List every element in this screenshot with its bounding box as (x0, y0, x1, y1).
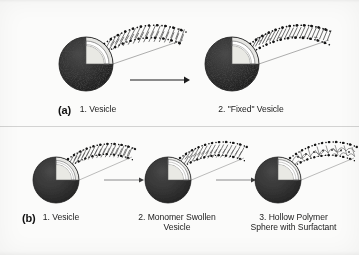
vesicle-unit-a2 (198, 4, 348, 104)
caption-b2: 2. Monomer Swollen Vesicle (118, 212, 236, 233)
vesicle-sphere-a2 (205, 37, 259, 91)
magnified-monomer-swollen-arc-b2 (178, 142, 247, 170)
magnified-bilayer-arc-b1 (66, 144, 135, 169)
vesicle-diagram-a2 (198, 4, 348, 104)
arrow-icon (128, 72, 194, 88)
panel-b: (b) (0, 128, 359, 255)
arrow-head (184, 77, 190, 84)
vesicle-diagram-a1 (52, 4, 192, 104)
polymer-network-b3 (292, 145, 355, 167)
inner-headgroup-dots-a2 (247, 38, 330, 56)
magnified-polymerized-arc-a2 (247, 25, 332, 56)
outer-headgroup-dots-a2 (250, 25, 332, 44)
magnified-polymer-shell-arc-b3 (288, 142, 357, 170)
panel-a: (a) (0, 0, 359, 128)
vesicle-sphere-a1 (59, 37, 113, 91)
caption-b1: 1. Vesicle (6, 212, 116, 222)
caption-a1: 1. Vesicle (28, 104, 168, 114)
process-arrow-a1-to-a2[interactable] (128, 72, 194, 88)
caption-b3: 3. Hollow Polymer Sphere with Surfactant (228, 212, 359, 233)
vesicle-unit-b3 (250, 128, 359, 214)
vesicle-diagram-b1 (28, 128, 138, 214)
vesicle-diagram-b2 (140, 128, 250, 214)
vesicle-sphere-b3 (255, 157, 301, 203)
vesicle-unit-a1 (52, 4, 192, 104)
vesicle-unit-b1 (28, 128, 138, 214)
magnified-bilayer-arc-a1 (101, 25, 186, 56)
lipid-tails-a1 (106, 26, 184, 52)
caption-a2: 2. "Fixed" Vesicle (176, 104, 326, 114)
vesicle-sphere-b1 (33, 157, 79, 203)
vesicle-diagram-b3 (250, 128, 359, 214)
figure-canvas: (a) (0, 0, 359, 255)
vesicle-sphere-b2 (145, 157, 191, 203)
vesicle-unit-b2 (140, 128, 250, 214)
